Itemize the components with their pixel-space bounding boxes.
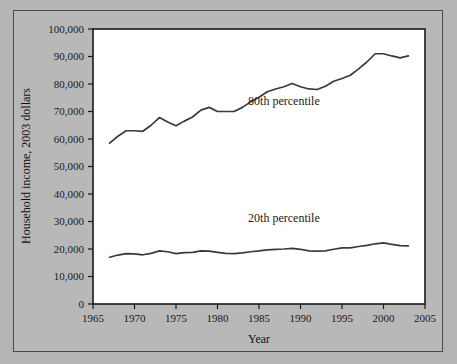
x-tick-label: 1990 — [290, 312, 313, 324]
y-tick-label: 60,000 — [54, 133, 85, 145]
y-tick-label: 0 — [79, 298, 85, 310]
series-annotation-80th-percentile: 80th percentile — [248, 94, 320, 108]
y-tick-label: 40,000 — [54, 188, 85, 200]
figure-frame: 010,00020,00030,00040,00050,00060,00070,… — [13, 10, 443, 352]
y-tick-label: 10,000 — [54, 270, 85, 282]
x-tick-label: 1970 — [124, 312, 147, 324]
y-tick-label: 90,000 — [54, 50, 85, 62]
y-tick-label: 100,000 — [48, 23, 84, 35]
y-axis-tick-group: 010,00020,00030,00040,00050,00060,00070,… — [48, 23, 93, 310]
x-tick-label: 1975 — [165, 312, 188, 324]
income-percentile-line-chart: 010,00020,00030,00040,00050,00060,00070,… — [14, 11, 441, 350]
plot-background — [93, 29, 425, 304]
y-axis-title: Household income, 2003 dollars — [19, 88, 33, 244]
y-tick-label: 50,000 — [54, 160, 85, 172]
x-axis-tick-group: 196519701975198019851990199520002005 — [82, 304, 437, 324]
x-tick-label: 1980 — [207, 312, 230, 324]
x-axis-title: Year — [248, 332, 270, 346]
x-tick-label: 1995 — [331, 312, 354, 324]
x-tick-label: 2000 — [373, 312, 396, 324]
x-tick-label: 1965 — [82, 312, 105, 324]
y-tick-label: 70,000 — [54, 105, 85, 117]
x-tick-label: 2005 — [414, 312, 437, 324]
x-tick-label: 1985 — [248, 312, 271, 324]
y-tick-label: 30,000 — [54, 215, 85, 227]
y-tick-label: 20,000 — [54, 243, 85, 255]
series-annotation-20th-percentile: 20th percentile — [248, 211, 320, 225]
y-tick-label: 80,000 — [54, 78, 85, 90]
